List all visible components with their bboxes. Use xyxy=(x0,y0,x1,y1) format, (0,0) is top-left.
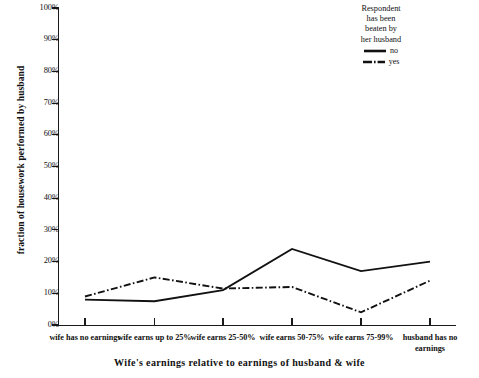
legend-entry[interactable]: no xyxy=(325,46,437,56)
y-tick-label: 20% xyxy=(11,257,59,265)
y-tick-label: 90% xyxy=(11,35,59,43)
y-tick-label-wrap: 90% xyxy=(0,35,59,36)
legend-title-line: Respondent xyxy=(325,4,437,14)
y-tick-label: 0% xyxy=(11,321,59,329)
legend-title: Respondenthas beenbeaten byher husband xyxy=(325,4,437,45)
x-tick-mark xyxy=(154,318,155,326)
x-tick-mark xyxy=(429,318,430,326)
x-tick-mark xyxy=(360,318,361,326)
x-category-label: wife earns 25-50% xyxy=(184,333,262,344)
x-category-label: wife has no earnings xyxy=(46,333,124,344)
x-tick-mark xyxy=(84,318,85,326)
legend: Respondenthas beenbeaten byher husband n… xyxy=(325,4,437,67)
legend-label: yes xyxy=(389,58,400,66)
y-tick-label: 100% xyxy=(11,4,59,12)
y-tick-label: 80% xyxy=(11,67,59,75)
x-tick-mark xyxy=(291,318,292,326)
series-line-no xyxy=(85,249,430,301)
legend-entries: noyes xyxy=(325,46,437,67)
legend-title-line: has been xyxy=(325,14,437,24)
series-line-yes xyxy=(85,277,430,312)
y-tick-label-wrap: 80% xyxy=(0,67,59,68)
x-category-label: wife earns 75-99% xyxy=(322,333,400,344)
x-category-label: husband has no earnings xyxy=(391,333,469,354)
legend-swatch-solid-icon xyxy=(364,46,386,56)
x-category-label: wife earns up to 25% xyxy=(116,333,194,344)
y-tick-label-wrap: 50% xyxy=(0,162,59,163)
x-tick-mark xyxy=(222,318,223,326)
y-tick-label: 30% xyxy=(11,226,59,234)
x-axis-line xyxy=(58,325,456,326)
y-tick-label: 60% xyxy=(11,130,59,138)
y-tick-label-wrap: 100% xyxy=(0,4,59,5)
y-tick-label-wrap: 40% xyxy=(0,194,59,195)
x-axis-title: Wife's earnings relative to earnings of … xyxy=(0,357,479,368)
y-tick-label: 40% xyxy=(11,194,59,202)
legend-title-line: her husband xyxy=(325,35,437,45)
y-tick-label: 70% xyxy=(11,99,59,107)
y-tick-label-wrap: 70% xyxy=(0,99,59,100)
y-tick-label-wrap: 20% xyxy=(0,257,59,258)
chart-container: fraction of housework performed by husba… xyxy=(0,0,479,378)
legend-entry[interactable]: yes xyxy=(325,57,437,67)
x-category-label: wife earns 50-75% xyxy=(253,333,331,344)
y-tick-label: 10% xyxy=(11,289,59,297)
legend-label: no xyxy=(390,47,398,55)
legend-swatch-dash-dot-icon xyxy=(363,57,385,67)
y-tick-label-wrap: 30% xyxy=(0,226,59,227)
y-tick-label-wrap: 0% xyxy=(0,321,59,322)
y-tick-label-wrap: 10% xyxy=(0,289,59,290)
y-tick-label: 50% xyxy=(11,162,59,170)
y-tick-label-wrap: 60% xyxy=(0,130,59,131)
legend-title-line: beaten by xyxy=(325,24,437,34)
